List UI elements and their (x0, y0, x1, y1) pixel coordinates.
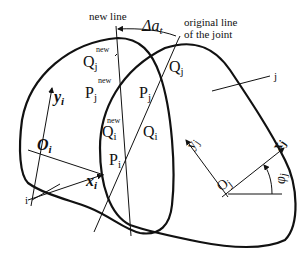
new-joint-line (116, 26, 131, 236)
phi-j-label: φj (273, 173, 289, 184)
pi-label: Pi (109, 151, 121, 170)
qj-new-sup: new (96, 45, 110, 54)
pj-new-sup: new (98, 76, 112, 85)
oj-label: Oj (214, 174, 234, 195)
pj-label: Pj (139, 84, 151, 103)
tick-qj-new (115, 54, 117, 56)
original-line-label-2: of the joint (184, 28, 232, 40)
block-i-leader (32, 184, 60, 200)
pj-new-label: Pj (85, 84, 97, 103)
oi-label: Oi (37, 136, 53, 155)
delta-a-label: Δat (141, 17, 163, 36)
original-line-label-1: original line (184, 16, 238, 28)
xj-label: xj (269, 136, 288, 154)
original-line-leader (178, 36, 180, 40)
qj-new-label: Qj (83, 53, 98, 72)
xi-label: xi (85, 172, 98, 191)
new-line-label: new line (89, 10, 127, 22)
block-i-label: i (25, 194, 28, 206)
joint-diagram: new line Δat original line of the joint … (0, 0, 307, 258)
qj-label: Qj (169, 58, 184, 77)
qi-new-label: Qi (102, 123, 117, 142)
diagram-canvas: new line Δat original line of the joint … (0, 0, 307, 258)
phi-j-arc (264, 165, 272, 194)
yi-label: yi (52, 88, 65, 107)
xj-axis (222, 148, 284, 197)
block-j-label: j (273, 70, 277, 82)
block-j-leader (212, 76, 270, 91)
qi-label: Qi (143, 123, 158, 142)
yj-label: yj (183, 135, 202, 152)
